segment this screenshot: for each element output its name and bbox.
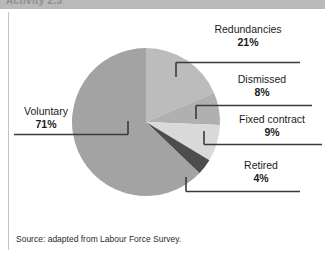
pie-label-redundancies-name: Redundancies bbox=[196, 23, 300, 36]
pie-label-fixed-contract-name: Fixed contract bbox=[224, 113, 320, 126]
figure-page: Activity 2.3 bbox=[0, 0, 325, 254]
pie-label-dismissed: Dismissed 8% bbox=[222, 73, 302, 98]
pie-label-retired: Retired 4% bbox=[228, 159, 294, 184]
pie-label-fixed-contract-pct: 9% bbox=[224, 126, 320, 139]
pie-label-redundancies-pct: 21% bbox=[196, 36, 300, 49]
header-band: Activity 2.3 bbox=[0, 0, 325, 9]
source-note: Source: adapted from Labour Force Survey… bbox=[16, 234, 181, 244]
pie-label-retired-name: Retired bbox=[228, 159, 294, 172]
pie-label-redundancies: Redundancies 21% bbox=[196, 23, 300, 48]
pie-label-voluntary-name: Voluntary bbox=[10, 105, 82, 118]
pie-label-fixed-contract: Fixed contract 9% bbox=[224, 113, 320, 138]
pie-chart-figure: Voluntary 71% Redundancies 21% Dismissed… bbox=[0, 9, 325, 254]
pie-label-dismissed-name: Dismissed bbox=[222, 73, 302, 86]
pie-label-dismissed-pct: 8% bbox=[222, 86, 302, 99]
pie-label-voluntary: Voluntary 71% bbox=[10, 105, 82, 130]
pie-label-voluntary-pct: 71% bbox=[10, 118, 82, 131]
pie-label-retired-pct: 4% bbox=[228, 172, 294, 185]
header-band-title: Activity 2.3 bbox=[6, 0, 62, 6]
